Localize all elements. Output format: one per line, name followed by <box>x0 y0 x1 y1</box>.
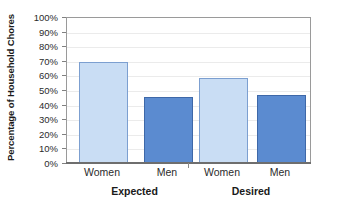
y-axis-tick-label: 70% <box>39 55 58 66</box>
y-axis-tick-label: 80% <box>39 41 58 52</box>
x-axis-group-labels: ExpectedDesired <box>66 185 311 201</box>
y-axis-tick-mark <box>62 17 66 18</box>
y-axis-tick-label: 100% <box>34 12 58 23</box>
y-axis-tick-mark <box>62 163 66 164</box>
y-axis-tick-label: 40% <box>39 99 58 110</box>
x-axis-category-label: Men <box>157 166 177 178</box>
y-axis-tick-label: 10% <box>39 143 58 154</box>
bar-expected-men <box>144 97 193 163</box>
x-axis-category-label: Men <box>270 166 290 178</box>
y-axis-tick-label: 30% <box>39 114 58 125</box>
bar-desired-women <box>199 78 248 163</box>
bars-layer <box>67 18 310 163</box>
x-axis-category-label: Women <box>84 166 120 178</box>
y-axis-tick-mark <box>62 32 66 33</box>
y-axis-title: Percentage of Household Chores <box>0 0 20 175</box>
x-axis-category-labels: WomenMenWomenMen <box>66 166 311 182</box>
y-axis-tick-mark <box>62 148 66 149</box>
y-axis-tick-mark <box>62 61 66 62</box>
y-axis-tick-label: 50% <box>39 85 58 96</box>
plot-area <box>66 17 311 163</box>
y-axis-tick-label: 20% <box>39 128 58 139</box>
y-axis-tick-label: 60% <box>39 70 58 81</box>
bar-desired-men <box>257 95 306 163</box>
y-axis-tick-mark <box>62 46 66 47</box>
bar-chart: Percentage of Household Chores 100%90%80… <box>0 0 349 209</box>
y-axis-tick-mark <box>62 119 66 120</box>
y-axis-tick-mark <box>62 75 66 76</box>
y-axis-tick-label: 0% <box>44 158 58 169</box>
x-axis-category-label: Women <box>204 166 240 178</box>
x-axis-group-label: Desired <box>232 185 271 197</box>
x-axis-group-label: Expected <box>111 185 158 197</box>
y-axis-tick-label: 90% <box>39 26 58 37</box>
y-axis-tick-mark <box>62 134 66 135</box>
y-axis-title-text: Percentage of Household Chores <box>5 14 16 161</box>
y-axis-tick-mark <box>62 90 66 91</box>
y-axis-tick-mark <box>62 105 66 106</box>
y-axis-tick-labels: 100%90%80%70%60%50%40%30%20%10%0% <box>20 11 60 163</box>
bar-expected-women <box>79 62 128 163</box>
